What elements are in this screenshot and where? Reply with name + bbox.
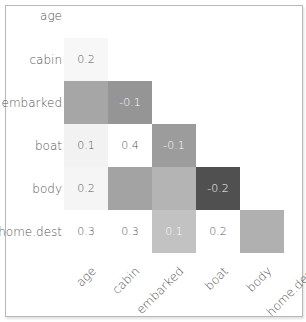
row-label-age: age	[40, 9, 62, 23]
cell-value: -0.1	[119, 96, 140, 109]
row-label-cabin: cabin	[29, 53, 62, 67]
heatmap-cell: 0.1	[152, 210, 196, 253]
cell-value: 0.2	[209, 225, 227, 238]
row-label-body: body	[32, 182, 62, 196]
cell-value: 0.1	[165, 225, 183, 238]
heatmap-cell: 0.2	[64, 167, 108, 210]
heatmap-cell	[108, 167, 152, 210]
heatmap-cell	[64, 81, 108, 124]
heatmap-cell	[240, 210, 284, 253]
row-label-embarked: embarked	[2, 96, 63, 110]
cell-value: -0.2	[207, 182, 228, 195]
cell-value: 0.2	[77, 182, 95, 195]
heatmap-cell: 0.1	[64, 124, 108, 167]
cell-value: 0.1	[77, 139, 95, 152]
heatmap-cell: 0.2	[64, 38, 108, 81]
heatmap-cell: -0.1	[152, 124, 196, 167]
heatmap-cell	[152, 167, 196, 210]
row-label-home-dest: home.dest	[0, 225, 62, 239]
cell-value: 0.3	[121, 225, 139, 238]
cell-value: 0.3	[77, 225, 95, 238]
cell-value: 0.4	[121, 139, 139, 152]
cell-value: -0.1	[163, 139, 184, 152]
heatmap-cell: 0.3	[64, 210, 108, 253]
heatmap-cell: 0.2	[196, 210, 240, 253]
cell-value: 0.2	[77, 53, 95, 66]
row-label-boat: boat	[35, 139, 62, 153]
heatmap-cell: -0.1	[108, 81, 152, 124]
heatmap-cell: -0.2	[196, 167, 240, 210]
heatmap-cell: 0.3	[108, 210, 152, 253]
heatmap-cell: 0.4	[108, 124, 152, 167]
